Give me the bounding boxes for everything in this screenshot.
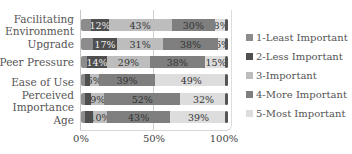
legend-item-2-less: 2-Less Important [246, 47, 348, 66]
bar-segment [81, 19, 91, 31]
category-label-peer-pressure: Peer Pressure [0, 56, 74, 68]
bar-segment: 30% [172, 19, 216, 31]
bar-end-cap [225, 111, 228, 123]
bar-segment: 39% [99, 74, 156, 86]
category-label-line: Facilitating [5, 13, 74, 25]
bar-row: 17%31%38%6% [81, 38, 227, 50]
bar-segment: 31% [117, 38, 162, 50]
legend-swatch-icon [246, 34, 253, 41]
bar-end-cap [225, 93, 228, 105]
bar-segment: 49% [155, 74, 227, 86]
bar-segment: 39% [170, 111, 227, 123]
legend-item-5-most: 5-Most Important [246, 104, 348, 123]
bar-row: 9%52%32% [81, 93, 227, 105]
bar-segment: 29% [107, 56, 149, 68]
bar-end-cap [225, 56, 228, 68]
x-tick-0: 0% [73, 133, 89, 144]
legend-item-4-more: 4-More Important [246, 85, 348, 104]
bar-segment: 32% [180, 93, 227, 105]
legend-label: 2-Less Important [256, 51, 343, 62]
bar-end-cap [225, 74, 228, 86]
bar-segment: 43% [107, 111, 170, 123]
bar-segment: 17% [93, 38, 118, 50]
category-label-ease-of-use: Ease of Use [11, 76, 74, 88]
category-label-upgrade: Upgrade [27, 38, 74, 50]
x-tick-100: 100% [210, 133, 239, 144]
bar-segment: 52% [104, 93, 180, 105]
bar-row: 12%43%30%8% [81, 19, 227, 31]
legend: 1-Least Important 2-Less Important 3-Imp… [246, 28, 348, 123]
legend-item-3-important: 3-Important [246, 66, 348, 85]
bar-segment: 38% [150, 56, 205, 68]
category-label-line: Importance [12, 101, 74, 113]
legend-swatch-icon [246, 72, 253, 79]
bar-segment: 10% [93, 111, 108, 123]
category-label-line: Perceived [12, 89, 74, 101]
bar-segment: 15% [205, 56, 227, 68]
stacked-bar-chart: Facilitating Environment Upgrade Peer Pr… [0, 0, 352, 154]
legend-swatch-icon [246, 91, 253, 98]
bar-end-cap [225, 19, 228, 31]
category-label-perceived-importance: Perceived Importance [12, 89, 74, 113]
legend-label: 3-Important [256, 70, 317, 81]
legend-swatch-icon [246, 53, 253, 60]
bar-segment: 14% [87, 56, 107, 68]
legend-item-1-least: 1-Least Important [246, 28, 348, 47]
category-label-age: Age [53, 114, 74, 126]
bar-segment: 43% [109, 19, 172, 31]
category-label-line: Environment [5, 25, 74, 37]
bar-segment: 12% [91, 19, 109, 31]
bar-segment [81, 38, 93, 50]
bar-end-cap [225, 38, 228, 50]
legend-label: 5-Most Important [256, 108, 345, 119]
bar-segment: 6% [90, 74, 99, 86]
bar-segment [85, 111, 92, 123]
bar-row: 14%29%38%15% [81, 56, 227, 68]
bar-row: 10%43%39% [81, 111, 227, 123]
bar-segment: 9% [91, 93, 104, 105]
bar-segment: 38% [163, 38, 218, 50]
legend-swatch-icon [246, 110, 253, 117]
category-label-facilitating-environment: Facilitating Environment [5, 13, 74, 37]
legend-label: 4-More Important [256, 89, 347, 100]
x-tick-50: 50% [143, 133, 165, 144]
bar-row: 6%39%49% [81, 74, 227, 86]
legend-label: 1-Least Important [256, 32, 348, 43]
